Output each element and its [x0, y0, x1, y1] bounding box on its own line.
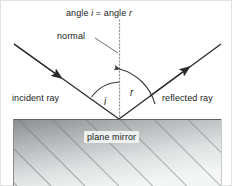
angle-i-label: i: [104, 97, 106, 107]
plane-mirror-label: plane mirror: [84, 131, 139, 143]
normal-leader-line: [95, 38, 118, 53]
plane-mirror-body: [13, 119, 222, 186]
angle-r-label: r: [130, 88, 133, 98]
angle-equality-title: angle i = angle r: [66, 8, 132, 18]
angle-r-arc: [120, 69, 156, 104]
incident-ray-arrow: [14, 44, 58, 76]
incident-ray-label: incident ray: [12, 93, 59, 103]
angle-i-arc: [92, 82, 120, 97]
mirror-hatching: [13, 119, 222, 186]
reflected-ray-label: reflected ray: [162, 93, 213, 103]
normal-label: normal: [57, 31, 85, 41]
reflection-diagram: angle i = angle r normal incident ray re…: [0, 0, 232, 186]
